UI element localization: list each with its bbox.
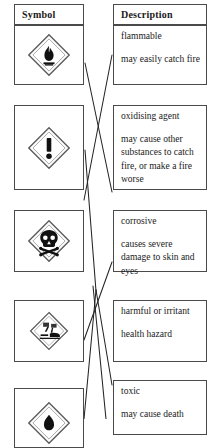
description-cell-flammable[interactable]: flammable may easily catch fire — [113, 25, 207, 85]
description-cell-harmful[interactable]: harmful or irritant health hazard — [113, 300, 207, 362]
symbol-cell-exclamation[interactable] — [14, 105, 84, 190]
description-line: harmful or irritant — [121, 305, 201, 319]
description-line: oxidising agent — [121, 110, 201, 124]
corrosion-diamond-icon — [28, 310, 70, 352]
flame-diamond-icon — [26, 32, 72, 78]
description-line: may cause death — [121, 408, 201, 422]
exclamation-mark-diamond-icon — [26, 125, 72, 171]
description-line: causes severe damage to skin and eyes — [121, 238, 201, 279]
description-line: may cause other substances to catch fire… — [121, 133, 201, 187]
column-header-symbol-label: Symbol — [22, 9, 55, 20]
description-line: flammable — [121, 30, 201, 44]
description-cell-oxidising[interactable]: oxidising agent may cause other substanc… — [113, 105, 207, 190]
diamond-partial-icon — [26, 400, 72, 446]
skull-crossbones-diamond-icon — [26, 218, 72, 264]
symbol-cell-toxic[interactable] — [14, 210, 84, 272]
description-line: corrosive — [121, 215, 201, 229]
matching-line-6 — [84, 290, 96, 419]
matching-line-7 — [93, 286, 106, 419]
symbol-cell-corrosive[interactable] — [14, 300, 84, 362]
description-line: may easily catch fire — [121, 53, 201, 67]
symbol-cell-partial[interactable] — [14, 388, 84, 448]
matching-line-3 — [85, 150, 96, 291]
description-cell-corrosive[interactable]: corrosive causes severe damage to skin a… — [113, 210, 207, 272]
description-cell-toxic[interactable]: toxic may cause death — [113, 380, 207, 435]
column-header-description: Description — [113, 4, 207, 25]
column-header-description-label: Description — [121, 9, 173, 20]
column-header-symbol: Symbol — [14, 4, 84, 25]
description-line: toxic — [121, 385, 201, 399]
description-line: health hazard — [121, 328, 201, 342]
symbol-cell-flammable[interactable] — [14, 25, 84, 85]
